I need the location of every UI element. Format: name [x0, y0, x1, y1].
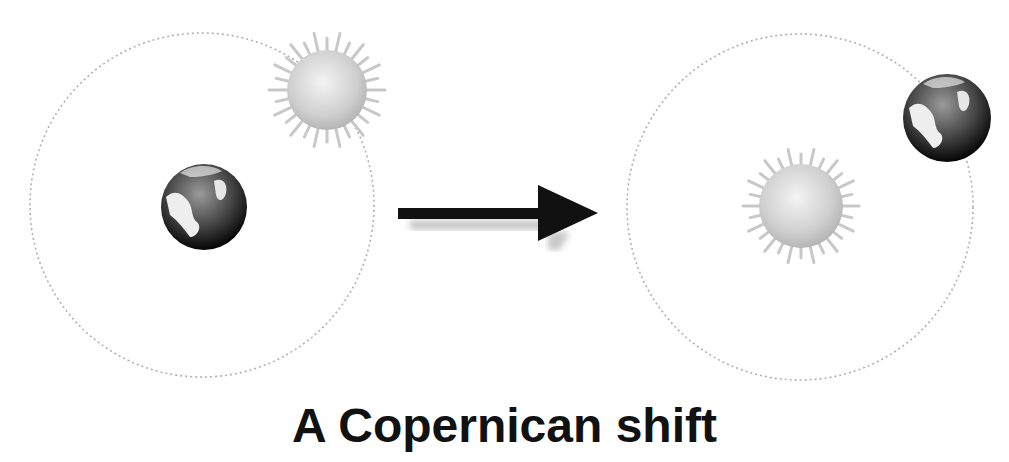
- diagram-caption: A Copernican shift: [0, 398, 1009, 453]
- arrow-right-icon: [398, 185, 598, 250]
- geocentric-panel: [30, 33, 385, 377]
- copernican-diagram: [0, 0, 1009, 462]
- earth-icon: [161, 164, 247, 250]
- sun-icon: [743, 150, 859, 263]
- earth-icon: [903, 74, 991, 162]
- heliocentric-panel: [627, 34, 991, 380]
- sun-icon: [269, 34, 385, 147]
